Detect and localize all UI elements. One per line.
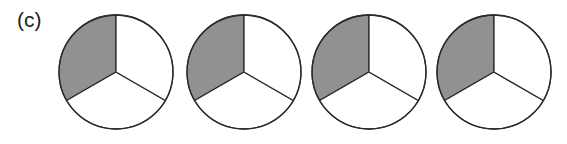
figure-panel: (c) [0, 0, 567, 144]
pie-circles-svg [0, 0, 567, 144]
pie-circle-1 [59, 15, 173, 129]
pie-circle-3 [312, 15, 426, 129]
pie-circle-row [0, 0, 567, 144]
pie-circle-2 [187, 15, 301, 129]
pie-circle-4 [437, 15, 551, 129]
